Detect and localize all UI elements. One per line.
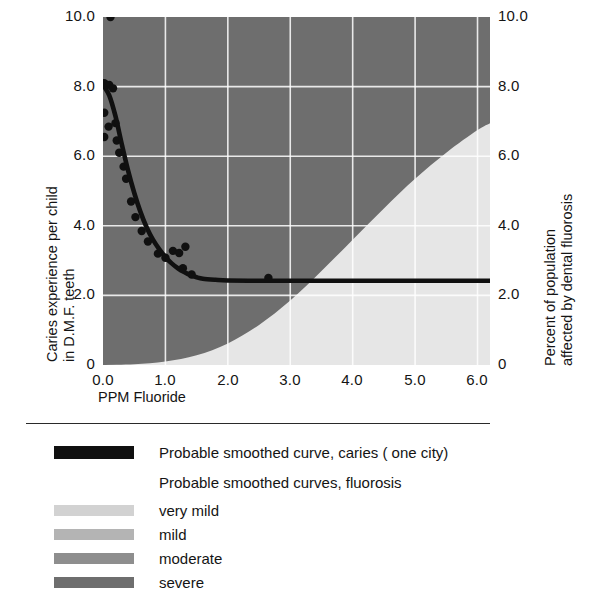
scatter-point bbox=[175, 249, 183, 257]
ytick-left-10: 10.0 bbox=[33, 7, 95, 24]
legend-swatch-fluorosis-heading bbox=[54, 477, 134, 488]
scatter-point bbox=[131, 213, 139, 221]
ytick-right-8: 8.0 bbox=[498, 77, 519, 94]
ytick-right-0: 0 bbox=[498, 355, 507, 372]
ytick-right-6: 6.0 bbox=[498, 146, 519, 163]
y-axis-title-left-line2: in D.M.F. teeth bbox=[61, 269, 78, 362]
ytick-right-10: 10.0 bbox=[498, 7, 528, 24]
scatter-point bbox=[100, 109, 108, 117]
ytick-left-6: 6.0 bbox=[43, 146, 95, 163]
chart-area: 0 2.0 4.0 6.0 8.0 10.0 0 2.0 4.0 6.0 8.0… bbox=[0, 0, 596, 404]
legend: Probable smoothed curve, caries ( one ci… bbox=[0, 404, 596, 584]
legend-swatch-moderate bbox=[54, 553, 134, 564]
xtick-6: 6.0 bbox=[457, 371, 497, 388]
legend-label-very-mild: very mild bbox=[159, 500, 219, 522]
legend-label-moderate: moderate bbox=[159, 548, 222, 570]
legend-label-mild: mild bbox=[159, 524, 187, 546]
xtick-4: 4.0 bbox=[332, 371, 372, 388]
scatter-point bbox=[109, 84, 117, 92]
legend-item-severe: severe bbox=[26, 572, 566, 592]
legend-divider bbox=[26, 423, 490, 424]
legend-label-caries-curve: Probable smoothed curve, caries ( one ci… bbox=[159, 442, 448, 464]
y-axis-title-right-line1: Percent of population bbox=[542, 229, 559, 366]
legend-item-moderate: moderate bbox=[26, 548, 566, 570]
xtick-3: 3.0 bbox=[270, 371, 310, 388]
ytick-right-2: 2.0 bbox=[498, 285, 519, 302]
scatter-point bbox=[181, 242, 189, 250]
legend-swatch-caries-curve bbox=[54, 446, 134, 459]
legend-swatch-severe bbox=[54, 577, 134, 588]
y-axis-title-right-line2: affected by dental fluorosis bbox=[559, 194, 576, 366]
y-axis-title-left-line1: Caries experience per child bbox=[44, 186, 61, 362]
legend-label-fluorosis-heading: Probable smoothed curves, fluorosis bbox=[159, 472, 402, 494]
legend-item-caries-curve: Probable smoothed curve, caries ( one ci… bbox=[26, 442, 566, 464]
xtick-5: 5.0 bbox=[395, 371, 435, 388]
legend-item-mild: mild bbox=[26, 524, 566, 546]
ytick-left-8: 8.0 bbox=[43, 77, 95, 94]
legend-label-severe: severe bbox=[159, 572, 204, 592]
plot-canvas bbox=[0, 0, 596, 404]
legend-item-fluorosis-heading: Probable smoothed curves, fluorosis bbox=[26, 472, 566, 494]
xtick-0: 0.0 bbox=[83, 371, 123, 388]
scatter-point bbox=[106, 13, 114, 21]
xtick-1: 1.0 bbox=[145, 371, 185, 388]
legend-swatch-very-mild bbox=[54, 505, 134, 516]
scatter-point bbox=[100, 133, 108, 141]
xtick-2: 2.0 bbox=[208, 371, 248, 388]
legend-item-very-mild: very mild bbox=[26, 500, 566, 522]
legend-swatch-mild bbox=[54, 529, 134, 540]
ytick-right-4: 4.0 bbox=[498, 216, 519, 233]
